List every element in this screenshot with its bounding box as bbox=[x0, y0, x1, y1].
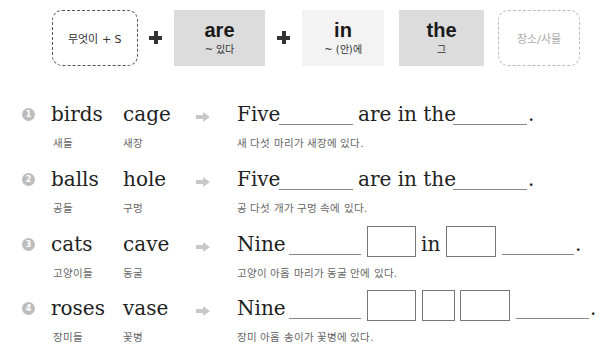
arrow-right-icon bbox=[196, 177, 210, 187]
word1: roses bbox=[51, 296, 105, 320]
formula-subject-box: 무엇이 + S bbox=[52, 10, 138, 66]
number-badge: 1 bbox=[22, 108, 35, 121]
sentence-translation: 장미 아홉 송이가 꽃병에 있다. bbox=[237, 330, 374, 344]
formula-in-meaning: ~ (안)에 bbox=[324, 43, 361, 57]
number-badge: 3 bbox=[22, 238, 35, 251]
word1-translation: 새들 bbox=[53, 136, 73, 150]
period: . bbox=[575, 232, 581, 256]
formula-are-word: are bbox=[204, 19, 234, 41]
sentence-mid: are in the bbox=[358, 102, 456, 126]
word1-translation: 고양이들 bbox=[53, 266, 93, 280]
sentence-start: Five bbox=[237, 167, 280, 191]
formula-subject-text: 무엇이 + S bbox=[68, 30, 121, 46]
formula-in-box: in ~ (안)에 bbox=[302, 10, 384, 66]
plus-icon bbox=[277, 31, 290, 44]
arrow-right-icon bbox=[196, 242, 210, 252]
answer-blank[interactable] bbox=[516, 318, 589, 319]
sentence-start: Nine bbox=[237, 296, 286, 320]
answer-blank[interactable] bbox=[289, 318, 361, 319]
sentence-start: Nine bbox=[237, 232, 286, 256]
plus-icon bbox=[149, 31, 162, 44]
word2-translation: 새장 bbox=[123, 136, 143, 150]
period: . bbox=[528, 167, 534, 191]
answer-box[interactable] bbox=[367, 226, 416, 257]
answer-blank[interactable] bbox=[502, 254, 574, 255]
sentence-translation: 새 다섯 마리가 새장에 있다. bbox=[237, 136, 364, 150]
number-badge: 4 bbox=[22, 302, 35, 315]
formula-place-text: 장소/사물 bbox=[517, 30, 561, 46]
word1: cats bbox=[51, 232, 92, 256]
word2-translation: 동굴 bbox=[123, 266, 143, 280]
sentence-start: Five bbox=[237, 102, 280, 126]
period: . bbox=[590, 296, 596, 320]
period: . bbox=[528, 102, 534, 126]
answer-box[interactable] bbox=[422, 290, 455, 321]
arrow-right-icon bbox=[196, 306, 210, 316]
formula-the-meaning: 그 bbox=[437, 43, 446, 57]
formula-are-box: are ~ 있다 bbox=[174, 10, 265, 66]
answer-blank[interactable] bbox=[453, 189, 527, 190]
word1: birds bbox=[51, 102, 103, 126]
word2: cage bbox=[123, 102, 171, 126]
formula-are-meaning: ~ 있다 bbox=[205, 43, 235, 57]
word1-translation: 공들 bbox=[53, 201, 73, 215]
arrow-right-icon bbox=[196, 112, 210, 122]
formula-in-word: in bbox=[334, 19, 352, 41]
sentence-mid: are in the bbox=[358, 167, 456, 191]
formula-the-word: the bbox=[427, 19, 457, 41]
number-badge: 2 bbox=[22, 173, 35, 186]
answer-blank[interactable] bbox=[289, 254, 361, 255]
sentence-mid: in bbox=[421, 232, 440, 256]
answer-box[interactable] bbox=[446, 226, 496, 257]
formula-the-box: the 그 bbox=[399, 10, 484, 66]
answer-blank[interactable] bbox=[279, 124, 353, 125]
word1-translation: 장미들 bbox=[53, 330, 83, 344]
sentence-translation: 공 다섯 개가 구멍 속에 있다. bbox=[237, 201, 367, 215]
sentence-translation: 고양이 아홉 마리가 동굴 안에 있다. bbox=[237, 266, 397, 280]
answer-box[interactable] bbox=[367, 290, 416, 321]
answer-blank[interactable] bbox=[279, 189, 353, 190]
word2-translation: 구멍 bbox=[123, 201, 143, 215]
word1: balls bbox=[51, 167, 99, 191]
answer-blank[interactable] bbox=[453, 124, 527, 125]
formula-place-box: 장소/사물 bbox=[498, 10, 580, 66]
word2: hole bbox=[123, 167, 166, 191]
word2-translation: 꽃병 bbox=[123, 330, 143, 344]
answer-box[interactable] bbox=[460, 290, 510, 321]
word2: cave bbox=[123, 232, 169, 256]
word2: vase bbox=[123, 296, 168, 320]
